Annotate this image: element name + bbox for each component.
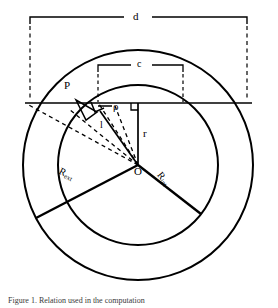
figure-caption: Figure 1. Relation used in the computati… [8,296,270,308]
label-r: r [143,128,147,139]
label-O: O [134,166,142,177]
right-angle-marker-r [131,103,138,110]
geometry-diagram-canvas [0,0,278,308]
label-c: c [137,59,141,69]
label-P: P [64,80,70,91]
segment-R-int [138,165,201,214]
label-rho: ρ [113,101,119,112]
dimension-extension-lines-c [98,74,183,102]
label-l: l [100,120,103,130]
label-d: d [133,11,139,22]
segment-R-ext [36,165,138,218]
figure-container: d c P ρ l r O Rext Rint Figure 1. Relati… [0,0,278,308]
